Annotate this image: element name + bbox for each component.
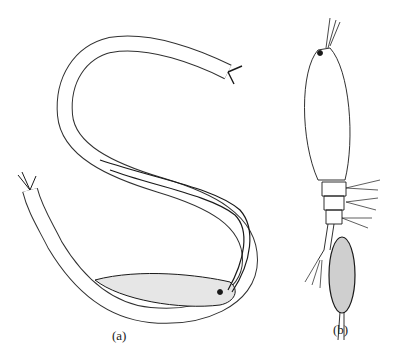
copepod-cephalothorax: [305, 48, 351, 180]
worm-head-antennae: [18, 172, 36, 190]
copepod-illustration: [305, 18, 381, 340]
parasite-eye: [218, 290, 223, 295]
copepod-swimming-legs: [342, 180, 380, 228]
panel-label-b: (b): [333, 322, 348, 338]
copepod-egg-sac: [329, 237, 355, 313]
worm-tail-cirri: [228, 66, 242, 84]
figure-canvas: [0, 0, 407, 361]
copepod-antennae: [326, 18, 340, 48]
copepod-eye: [318, 51, 323, 56]
copepod-caudal-setae: [305, 260, 322, 288]
worm-illustration: [18, 44, 250, 316]
panel-label-a: (a): [112, 328, 126, 344]
